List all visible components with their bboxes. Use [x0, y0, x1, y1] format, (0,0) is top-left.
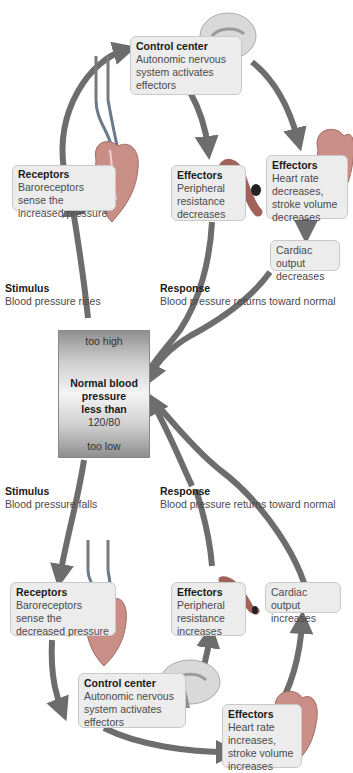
box-line: Cardiac output: [276, 244, 334, 270]
effectors-vessel-box-bottom: Effectors Peripheral resistance increase…: [171, 582, 246, 636]
box-title: Control center: [136, 40, 236, 53]
label-title: Stimulus: [5, 282, 101, 295]
effectors-heart-box-top: Effectors Heart rate decreases, stroke v…: [266, 155, 348, 219]
response-label-top: Response Blood pressure returns toward n…: [160, 282, 336, 308]
box-line: decreases: [272, 211, 342, 224]
arrow-control-to-heart-bottom: [104, 728, 228, 752]
box-title: Receptors: [18, 168, 110, 181]
box-line: effectors: [136, 79, 236, 92]
effectors-vessel-box-top: Effectors Peripheral resistance decrease…: [171, 165, 246, 221]
normal-blood-pressure-box: too high Normal blood pressure less than…: [58, 330, 150, 458]
response-label-bottom: Response Blood pressure returns toward n…: [160, 485, 336, 511]
box-line: stroke volume: [228, 747, 296, 760]
box-line: increased pressure: [18, 207, 110, 220]
box-line: Heart rate: [228, 721, 296, 734]
box-title: Effectors: [228, 708, 296, 721]
box-line: increases: [177, 625, 240, 638]
box-line: Autonomic nervous: [84, 690, 180, 703]
box-line: Baroreceptors: [16, 599, 110, 612]
stimulus-label-top: Stimulus Blood pressure rises: [5, 282, 101, 308]
arrow-center-to-stimulus-bottom: [60, 460, 84, 576]
box-line: system activates: [84, 703, 180, 716]
box-line: Baroreceptors: [18, 181, 110, 194]
too-high-label: too high: [59, 335, 149, 348]
control-center-box-top: Control center Autonomic nervous system …: [130, 36, 242, 95]
box-line: Peripheral: [177, 599, 240, 612]
box-line: increases,: [228, 734, 296, 747]
center-title-line: less than: [59, 403, 149, 416]
box-line: Autonomic nervous: [136, 53, 236, 66]
label-text: Blood pressure falls: [5, 498, 97, 510]
box-line: decreased pressure: [16, 625, 110, 638]
center-value: 120/80: [88, 416, 120, 428]
too-low-label: too low: [59, 440, 149, 453]
label-text: Blood pressure rises: [5, 295, 101, 307]
stimulus-label-bottom: Stimulus Blood pressure falls: [5, 485, 97, 511]
center-title-line: pressure: [59, 390, 149, 403]
box-title: Effectors: [177, 169, 240, 182]
label-title: Stimulus: [5, 485, 97, 498]
box-title: Receptors: [16, 586, 110, 599]
box-title: Effectors: [272, 159, 342, 172]
box-line: resistance: [177, 195, 240, 208]
normal-range-text: Normal blood pressure less than 120/80: [59, 377, 149, 429]
label-text: Blood pressure returns toward normal: [160, 498, 336, 510]
box-title: Control center: [84, 677, 180, 690]
box-line: Peripheral: [177, 182, 240, 195]
box-line: increases: [228, 760, 296, 773]
arrow-response-to-center-bottom: [152, 402, 192, 486]
arrow-control-to-vessel-top: [190, 92, 208, 148]
box-line: Heart rate: [272, 172, 342, 185]
box-line: system activates: [136, 66, 236, 79]
center-title-line: Normal blood: [59, 377, 149, 390]
receptors-box-bottom: Receptors Baroreceptors sense the decrea…: [10, 582, 116, 636]
label-text: Blood pressure returns toward normal: [160, 295, 336, 307]
control-center-box-bottom: Control center Autonomic nervous system …: [78, 673, 186, 728]
box-line: sense the: [16, 612, 110, 625]
cardiac-output-box-bottom: Cardiac output increases: [265, 582, 341, 613]
box-line: Cardiac output: [271, 586, 335, 612]
cardiac-output-box-top: Cardiac output decreases: [270, 240, 340, 271]
arrow-brain-to-heart-top: [252, 62, 298, 140]
box-title: Effectors: [177, 586, 240, 599]
arrow-receptors-to-control-bottom: [52, 640, 62, 710]
effectors-heart-box-bottom: Effectors Heart rate increases, stroke v…: [222, 704, 302, 768]
receptors-box-top: Receptors Baroreceptors sense the increa…: [12, 165, 116, 211]
box-line: increases: [271, 612, 335, 625]
box-line: resistance: [177, 612, 240, 625]
box-line: effectors: [84, 716, 180, 729]
box-line: sense the: [18, 194, 110, 207]
box-line: decreases,: [272, 185, 342, 198]
box-line: stroke volume: [272, 198, 342, 211]
box-line: decreases: [177, 208, 240, 221]
label-title: Response: [160, 485, 336, 498]
label-title: Response: [160, 282, 336, 295]
